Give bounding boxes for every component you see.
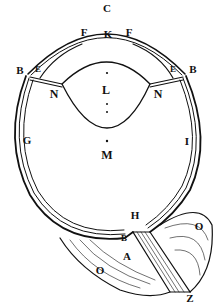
cornea-outer [28,34,185,74]
muscle-lower [60,238,170,296]
label-C: C [103,3,111,14]
label-G: G [23,135,32,146]
label-N-left: N [50,88,59,100]
label-H: H [131,210,140,221]
label-L: L [102,84,110,96]
muscle-right [160,213,212,293]
label-Z: Z [186,293,193,304]
label-E-right: E [170,65,176,74]
label-E-left: E [35,65,41,74]
optic-nerve [133,232,190,292]
label-O-right: O [195,221,204,232]
label-B-lower: B [121,234,127,243]
label-M: M [101,149,112,161]
axis-dot [106,72,108,74]
label-B-right: B [189,64,196,75]
label-F-left: F [81,27,88,38]
label-O-left: O [96,265,105,276]
sclera-outer [15,76,133,239]
label-I: I [185,136,189,147]
label-B-left: B [16,65,23,76]
label-K: K [104,29,113,40]
label-N-right: N [154,88,163,100]
label-F-right: F [126,27,133,38]
label-A: A [123,251,131,262]
